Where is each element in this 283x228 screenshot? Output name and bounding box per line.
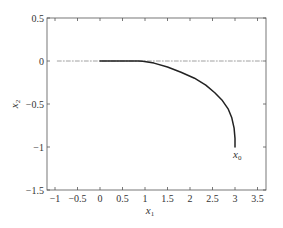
- x-tick-label: 0.5: [116, 193, 129, 204]
- x-tick-label: 3: [233, 193, 238, 204]
- x-tick-label: 2.5: [206, 193, 219, 204]
- x-tick-label: −1: [50, 193, 61, 204]
- plot-frame: [47, 18, 266, 190]
- x-tick-label: 3.5: [251, 193, 264, 204]
- y-tick-label: 0.5: [32, 13, 45, 24]
- chart: −1−0.500.511.522.533.50.50−0.5−1−1.5 x1 …: [0, 0, 283, 228]
- x-tick-label: 2: [188, 193, 193, 204]
- y-tick-label: −1.5: [26, 185, 44, 196]
- plot-series: [57, 61, 264, 147]
- y-tick-label: 0: [39, 56, 44, 67]
- x-axis-label: x1: [145, 204, 155, 218]
- x-tick-label: 1.5: [161, 193, 174, 204]
- x-tick-label: 0: [98, 193, 103, 204]
- y-tick-label: −0.5: [26, 99, 44, 110]
- y-axis-label: x2: [8, 99, 22, 109]
- annotation-x0: x0: [232, 148, 242, 162]
- axis-ticks: −1−0.500.511.522.533.50.50−0.5−1−1.5: [26, 13, 266, 205]
- y-tick-label: −1: [33, 142, 44, 153]
- x-tick-label: 1: [143, 193, 148, 204]
- x-tick-label: −0.5: [68, 193, 86, 204]
